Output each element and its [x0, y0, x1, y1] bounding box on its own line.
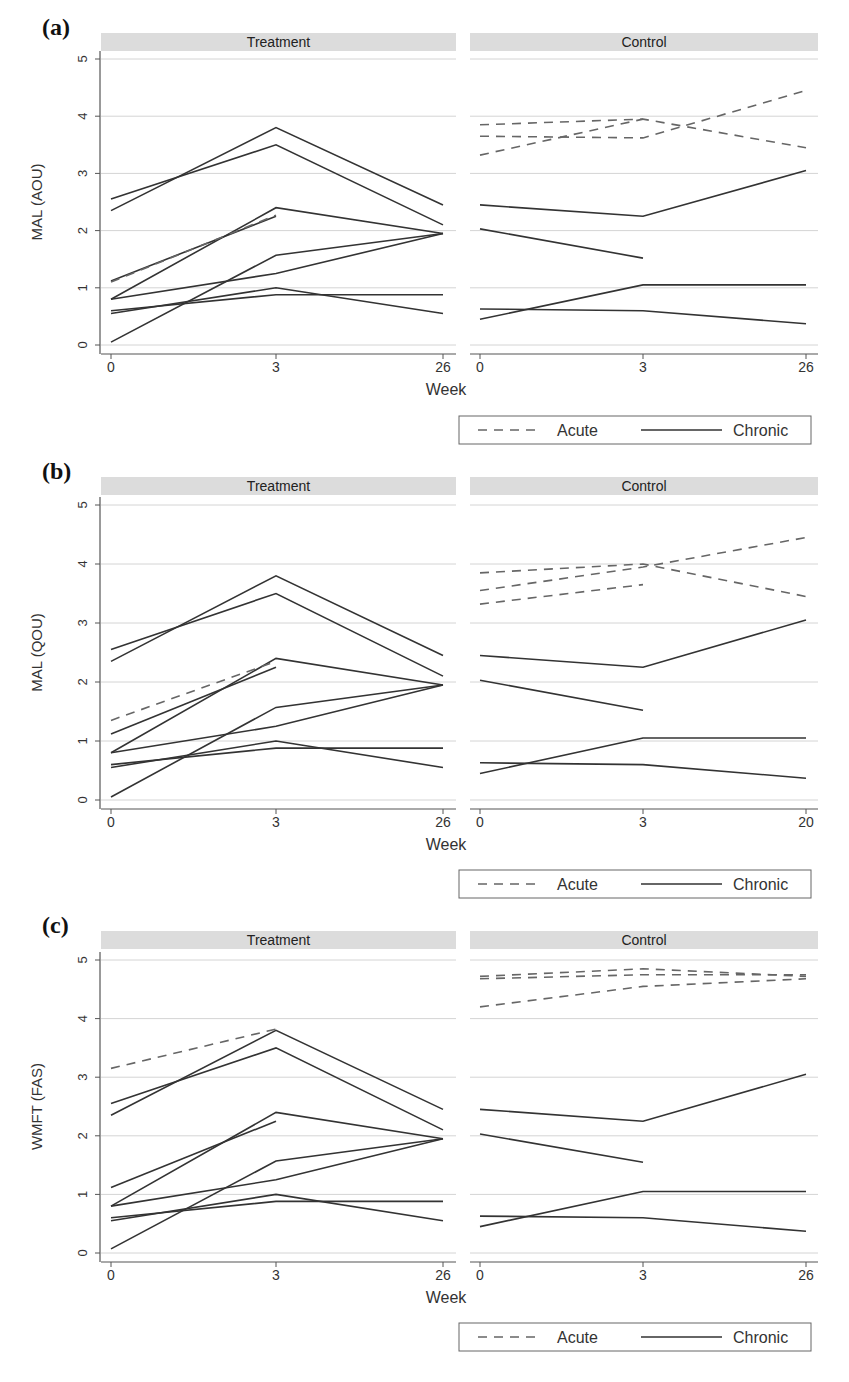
y-tick-label: 0 — [75, 341, 90, 348]
y-tick-label: 2 — [75, 1132, 90, 1139]
chronic-series-line — [111, 1139, 443, 1206]
legend-chronic-label: Chronic — [733, 876, 788, 893]
chronic-series-line — [111, 1121, 276, 1187]
x-tick-label: 26 — [798, 1267, 814, 1283]
acute-series-line — [480, 91, 806, 138]
panel-label: (a) — [42, 14, 70, 40]
y-axis-label: MAL (QOU) — [28, 613, 45, 692]
y-tick-label: 1 — [75, 737, 90, 744]
chronic-series-line — [111, 1201, 443, 1217]
panel-label: (b) — [42, 458, 71, 484]
x-tick-label: 3 — [272, 1267, 280, 1283]
acute-series-line — [480, 119, 806, 148]
y-axis-label: WMFT (FAS) — [28, 1063, 45, 1150]
facet-title: Control — [621, 34, 666, 50]
legend-acute-label: Acute — [557, 876, 598, 893]
y-tick-label: 2 — [75, 678, 90, 685]
chronic-series-line — [480, 309, 806, 324]
chronic-series-line — [111, 658, 443, 752]
chronic-series-line — [111, 1030, 443, 1115]
legend-acute-label: Acute — [557, 422, 598, 439]
legend: AcuteChronic — [459, 1323, 811, 1351]
acute-series-line — [480, 564, 806, 597]
facet-control: Control0326 — [470, 931, 818, 1283]
chronic-series-line — [480, 1216, 806, 1231]
legend: AcuteChronic — [459, 870, 811, 898]
x-tick-label: 0 — [476, 1267, 484, 1283]
y-tick-label: 3 — [75, 619, 90, 626]
chronic-series-line — [111, 685, 443, 753]
legend-acute-label: Acute — [557, 1329, 598, 1346]
facet-control: Control0326 — [470, 33, 818, 375]
facet-title: Treatment — [247, 932, 310, 948]
chart-panel-c: (c)WMFT (FAS)012345Treatment0326Control0… — [28, 912, 818, 1351]
chronic-series-line — [480, 620, 806, 667]
acute-series-line — [480, 975, 806, 979]
y-axis-label: MAL (AOU) — [28, 164, 45, 241]
x-tick-label: 3 — [639, 814, 647, 830]
y-tick-label: 3 — [75, 170, 90, 177]
y-tick-label: 0 — [75, 1249, 90, 1256]
figure-canvas: (a)MAL (AOU)012345Treatment0326Control03… — [0, 0, 849, 1382]
chronic-series-line — [111, 208, 443, 300]
x-axis-label: Week — [426, 836, 468, 853]
chronic-series-line — [480, 1192, 806, 1227]
x-axis-label: Week — [426, 381, 468, 398]
x-tick-label: 0 — [107, 1267, 115, 1283]
chronic-series-line — [480, 1134, 643, 1162]
x-tick-label: 26 — [798, 359, 814, 375]
facet-control: Control0320 — [470, 477, 818, 830]
x-tick-label: 0 — [107, 359, 115, 375]
x-tick-label: 3 — [272, 814, 280, 830]
facet-title: Treatment — [247, 34, 310, 50]
chart-panel-b: (b)MAL (QOU)012345Treatment0326Control03… — [28, 458, 818, 898]
y-tick-label: 4 — [75, 113, 90, 120]
facet-title: Control — [621, 478, 666, 494]
acute-series-line — [111, 1029, 276, 1068]
legend-chronic-label: Chronic — [733, 1329, 788, 1346]
chronic-series-line — [480, 229, 643, 258]
panel-label: (c) — [42, 912, 69, 938]
chronic-series-line — [111, 667, 276, 734]
figure: (a)MAL (AOU)012345Treatment0326Control03… — [0, 0, 849, 1382]
x-tick-label: 26 — [435, 814, 451, 830]
y-tick-label: 0 — [75, 796, 90, 803]
chronic-series-line — [480, 171, 806, 217]
legend: AcuteChronic — [459, 416, 811, 444]
x-tick-label: 3 — [639, 359, 647, 375]
facet-title: Control — [621, 932, 666, 948]
acute-series-line — [111, 661, 276, 720]
y-tick-label: 1 — [75, 1191, 90, 1198]
chronic-series-line — [111, 748, 443, 765]
y-tick-label: 1 — [75, 284, 90, 291]
y-tick-label: 5 — [75, 55, 90, 62]
x-tick-label: 3 — [639, 1267, 647, 1283]
x-tick-label: 26 — [435, 359, 451, 375]
x-axis-label: Week — [426, 1289, 468, 1306]
facet-treatment: Treatment0326 — [101, 931, 456, 1283]
chronic-series-line — [480, 1074, 806, 1121]
x-tick-label: 0 — [476, 814, 484, 830]
chronic-series-line — [480, 680, 643, 710]
y-tick-label: 4 — [75, 560, 90, 567]
y-tick-label: 2 — [75, 227, 90, 234]
chronic-series-line — [480, 285, 806, 319]
chronic-series-line — [111, 128, 443, 211]
chronic-series-line — [111, 576, 443, 662]
facet-treatment: Treatment0326 — [101, 33, 456, 375]
chronic-series-line — [480, 763, 806, 778]
facet-title: Treatment — [247, 478, 310, 494]
chronic-series-line — [480, 738, 806, 774]
x-tick-label: 0 — [476, 359, 484, 375]
chronic-series-line — [111, 234, 443, 300]
chart-panel-a: (a)MAL (AOU)012345Treatment0326Control03… — [28, 14, 818, 444]
x-tick-label: 3 — [272, 359, 280, 375]
y-tick-label: 3 — [75, 1074, 90, 1081]
y-tick-label: 4 — [75, 1015, 90, 1022]
x-tick-label: 20 — [798, 814, 814, 830]
chronic-series-line — [111, 1112, 443, 1206]
chronic-series-line — [111, 295, 443, 311]
facet-treatment: Treatment0326 — [101, 477, 456, 830]
y-tick-label: 5 — [75, 501, 90, 508]
acute-series-line — [480, 979, 806, 1007]
